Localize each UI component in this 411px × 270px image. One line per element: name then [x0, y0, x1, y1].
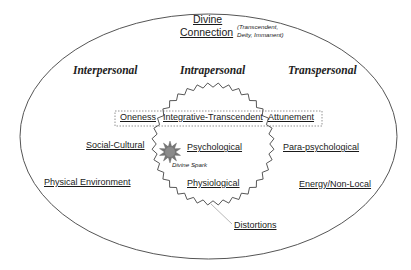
item-para-psychological: Para-psychological	[283, 142, 359, 152]
item-energy-non-local: Energy/Non-Local	[299, 179, 371, 189]
title-note-line1: (Transcendent,	[237, 23, 284, 31]
domain-intrapersonal: Intrapersonal	[180, 64, 245, 76]
distortions-pointer-line	[211, 204, 232, 224]
domain-interpersonal: Interpersonal	[73, 64, 138, 76]
title-note-line2: Deity, Immanent)	[237, 31, 284, 39]
band-integrative-transcendent: Integrative-Transcendent	[163, 112, 263, 122]
item-physical-environment: Physical Environment	[44, 177, 131, 187]
band-oneness: Oneness	[120, 112, 156, 122]
outer-ellipse	[20, 14, 397, 259]
diagram-shapes	[0, 0, 411, 270]
title-connection: Connection	[180, 26, 233, 38]
spirituality-model-diagram: Divine Connection (Transcendent, Deity, …	[0, 0, 411, 270]
title-divine: Divine	[193, 13, 222, 25]
item-physiological: Physiological	[187, 178, 240, 188]
domain-transpersonal: Transpersonal	[288, 64, 357, 76]
divine-spark-icon	[160, 141, 181, 163]
band-attunement: Attunement	[268, 112, 314, 122]
divine-spark-label: Divine Spark	[172, 161, 207, 168]
item-psychological: Psychological	[187, 142, 242, 152]
distortions-label: Distortions	[234, 220, 277, 230]
title-note: (Transcendent, Deity, Immanent)	[237, 23, 284, 39]
item-social-cultural: Social-Cultural	[86, 140, 145, 150]
